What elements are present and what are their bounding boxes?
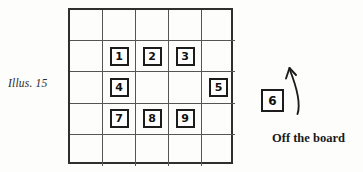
board-cell[interactable] bbox=[202, 135, 235, 166]
board-cell[interactable] bbox=[136, 72, 169, 103]
offboard-label: Off the board bbox=[272, 131, 345, 146]
figure-caption: Illus. 15 bbox=[8, 77, 66, 89]
board-cell[interactable] bbox=[70, 10, 103, 41]
number-tile[interactable]: 3 bbox=[176, 47, 195, 66]
board-cell[interactable] bbox=[70, 104, 103, 135]
number-tile[interactable]: 4 bbox=[110, 78, 129, 97]
illustration-figure: Illus. 15 1 2 3 4 5 7 bbox=[0, 0, 363, 172]
number-tile[interactable]: 8 bbox=[143, 109, 162, 128]
board-cell[interactable] bbox=[103, 10, 136, 41]
board-cell[interactable]: 1 bbox=[103, 41, 136, 72]
board-cell[interactable]: 5 bbox=[202, 72, 235, 103]
number-tile[interactable]: 1 bbox=[110, 47, 129, 66]
board-cell[interactable] bbox=[202, 10, 235, 41]
board-cell[interactable]: 4 bbox=[103, 72, 136, 103]
board-cell[interactable] bbox=[136, 135, 169, 166]
curved-up-arrow-icon bbox=[283, 62, 313, 116]
board-cell[interactable] bbox=[70, 72, 103, 103]
board-cell[interactable]: 3 bbox=[169, 41, 202, 72]
board-cell[interactable] bbox=[169, 10, 202, 41]
board-cell[interactable]: 7 bbox=[103, 104, 136, 135]
board-cell[interactable] bbox=[70, 41, 103, 72]
board-cell[interactable] bbox=[202, 104, 235, 135]
board-cell[interactable] bbox=[70, 135, 103, 166]
number-tile[interactable]: 5 bbox=[209, 78, 228, 97]
number-tile-offboard[interactable]: 6 bbox=[261, 89, 284, 112]
board-cell[interactable] bbox=[136, 10, 169, 41]
number-tile[interactable]: 9 bbox=[176, 109, 195, 128]
board-cell[interactable] bbox=[169, 135, 202, 166]
board-cell[interactable] bbox=[103, 135, 136, 166]
board-cell[interactable]: 8 bbox=[136, 104, 169, 135]
board-cell[interactable]: 9 bbox=[169, 104, 202, 135]
board-cell[interactable]: 2 bbox=[136, 41, 169, 72]
board-cell[interactable] bbox=[169, 72, 202, 103]
puzzle-board-grid: 1 2 3 4 5 7 8 9 bbox=[68, 8, 233, 164]
offboard-tile-container: 6 bbox=[261, 89, 284, 112]
board-cell[interactable] bbox=[202, 41, 235, 72]
number-tile[interactable]: 2 bbox=[143, 47, 162, 66]
number-tile[interactable]: 7 bbox=[110, 109, 129, 128]
